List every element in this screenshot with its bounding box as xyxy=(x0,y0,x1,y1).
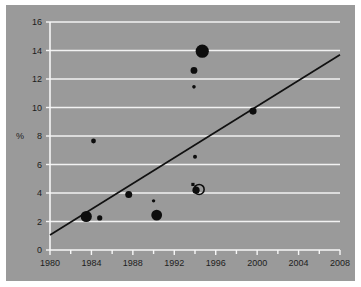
y-axis-title: % xyxy=(16,131,24,141)
y-tick-label-16: 16 xyxy=(32,17,42,27)
data-point-bubble xyxy=(125,191,132,198)
data-point-bubble xyxy=(191,67,198,74)
y-tick-label-8: 8 xyxy=(37,131,42,141)
data-point-bubble xyxy=(249,107,256,114)
x-tick-label-1984: 1984 xyxy=(81,258,101,268)
data-point-bubble xyxy=(97,215,102,220)
x-tick-label-1988: 1988 xyxy=(123,258,143,268)
y-tick-label-6: 6 xyxy=(37,160,42,170)
data-point-bubble xyxy=(196,45,209,58)
trend-line xyxy=(50,55,340,235)
data-point-bubble xyxy=(81,211,92,222)
data-point-square xyxy=(191,183,194,186)
x-tick-label-2004: 2004 xyxy=(289,258,309,268)
data-point-bubble xyxy=(91,139,96,144)
y-tick-label-4: 4 xyxy=(37,188,42,198)
chart-figure: 0246810121416 19801984198819921996200020… xyxy=(0,0,361,287)
y-tick-label-12: 12 xyxy=(32,74,42,84)
x-tick-labels-group: 19801984198819921996200020042008 xyxy=(40,258,350,268)
y-tick-label-14: 14 xyxy=(32,46,42,56)
y-tick-label-0: 0 xyxy=(37,245,42,255)
x-tick-label-1980: 1980 xyxy=(40,258,60,268)
x-tick-label-2000: 2000 xyxy=(247,258,267,268)
x-tick-label-1992: 1992 xyxy=(164,258,184,268)
data-point-bubble xyxy=(152,199,155,202)
data-point-bubble xyxy=(193,155,197,159)
data-point-bubble xyxy=(151,210,162,221)
chart-panel: 0246810121416 19801984198819921996200020… xyxy=(6,5,355,281)
data-markers-group xyxy=(81,45,257,222)
y-tick-label-2: 2 xyxy=(37,217,42,227)
x-tick-label-1996: 1996 xyxy=(206,258,226,268)
data-point-bubble xyxy=(192,85,196,89)
y-tick-labels-group: 0246810121416 xyxy=(32,17,42,255)
scatter-plot: 0246810121416 19801984198819921996200020… xyxy=(6,5,355,281)
x-tick-label-2008: 2008 xyxy=(330,258,350,268)
y-tick-label-10: 10 xyxy=(32,103,42,113)
